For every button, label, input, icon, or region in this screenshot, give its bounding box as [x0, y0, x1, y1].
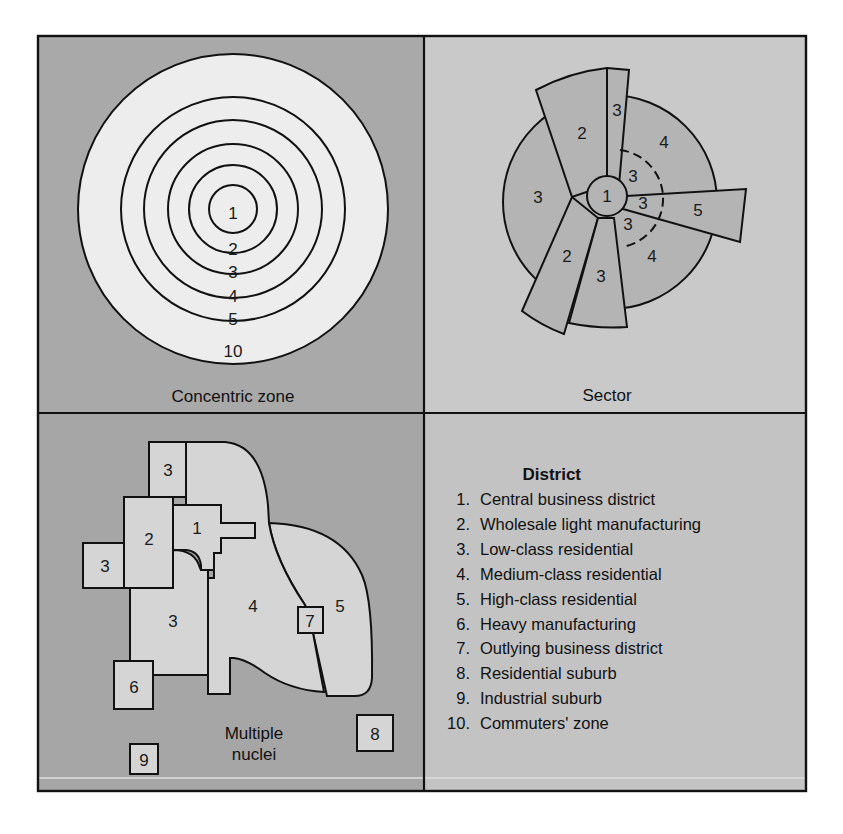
legend-item-number: 10.: [440, 711, 480, 736]
legend-item-number: 7.: [440, 636, 480, 661]
nuclei-label-3-lower: 3: [168, 612, 177, 631]
nuclei-label-8: 8: [370, 725, 379, 744]
sector-label-3-inner-lower: 3: [623, 215, 632, 234]
sector-label-5: 5: [693, 201, 702, 220]
legend-item-number: 4.: [440, 562, 480, 587]
district-legend: District 1.Central business district 2.W…: [440, 464, 800, 736]
zone-label-3: 3: [228, 263, 237, 282]
nuclei-label-1: 1: [192, 519, 201, 538]
nuclei-label-5: 5: [335, 597, 344, 616]
sector-label-4-lower: 4: [647, 247, 656, 266]
nuclei-label-9: 9: [139, 751, 148, 770]
sector-label-3-left: 3: [533, 188, 542, 207]
legend-item-number: 1.: [440, 487, 480, 512]
legend-item-text: High-class residential: [480, 587, 800, 612]
legend-item-number: 6.: [440, 612, 480, 637]
sector-label-2-top: 2: [577, 124, 586, 143]
legend-item: 4.Medium-class residential: [440, 562, 800, 587]
zone-label-2: 2: [228, 240, 237, 259]
zone-label-4: 4: [228, 287, 237, 306]
sector-label-3-top: 3: [612, 101, 621, 120]
legend-item: 10.Commuters' zone: [440, 711, 800, 736]
legend-list: 1.Central business district 2.Wholesale …: [440, 487, 800, 736]
sector-label-2-bottom: 2: [562, 247, 571, 266]
nuclei-label-2: 2: [144, 530, 153, 549]
legend-item-text: Wholesale light manufacturing: [480, 512, 800, 537]
nuclei-label-4: 4: [248, 597, 257, 616]
zone-label-10: 10: [224, 342, 243, 361]
zone-label-5: 5: [228, 310, 237, 329]
nuclei-label-3-left: 3: [100, 557, 109, 576]
legend-item-text: Outlying business district: [480, 636, 800, 661]
legend-item: 8.Residential suburb: [440, 661, 800, 686]
legend-item-text: Residential suburb: [480, 661, 800, 686]
legend-item: 9.Industrial suburb: [440, 686, 800, 711]
legend-item-number: 8.: [440, 661, 480, 686]
legend-item-number: 5.: [440, 587, 480, 612]
legend-item-number: 9.: [440, 686, 480, 711]
nuclei-caption-line2: nuclei: [232, 745, 276, 764]
legend-item: 3.Low-class residential: [440, 537, 800, 562]
sector-label-4-upper: 4: [659, 133, 668, 152]
legend-item: 7.Outlying business district: [440, 636, 800, 661]
legend-item: 2.Wholesale light manufacturing: [440, 512, 800, 537]
nuclei-label-7: 7: [305, 612, 314, 631]
nuclei-label-6: 6: [129, 678, 138, 697]
zone-label-1: 1: [228, 204, 237, 223]
legend-item: 6.Heavy manufacturing: [440, 612, 800, 637]
sector-label-3-inner-middle: 3: [638, 194, 647, 213]
concentric-caption: Concentric zone: [172, 387, 295, 406]
legend-item-number: 2.: [440, 512, 480, 537]
sector-label-center: 1: [602, 187, 611, 206]
legend-item-text: Medium-class residential: [480, 562, 800, 587]
legend-item-number: 3.: [440, 537, 480, 562]
legend-item-text: Low-class residential: [480, 537, 800, 562]
legend-item-text: Heavy manufacturing: [480, 612, 800, 637]
legend-item-text: Central business district: [480, 487, 800, 512]
nuclei-label-3-top: 3: [163, 461, 172, 480]
legend-item-text: Commuters' zone: [480, 711, 800, 736]
legend-item-text: Industrial suburb: [480, 686, 800, 711]
sector-caption: Sector: [582, 386, 631, 405]
legend-item: 1.Central business district: [440, 487, 800, 512]
legend-item: 5.High-class residential: [440, 587, 800, 612]
sector-label-3-inner-upper: 3: [628, 167, 637, 186]
legend-title: District: [441, 464, 581, 486]
nuclei-caption-line1: Multiple: [225, 724, 284, 743]
sector-label-3-bottom: 3: [596, 267, 605, 286]
